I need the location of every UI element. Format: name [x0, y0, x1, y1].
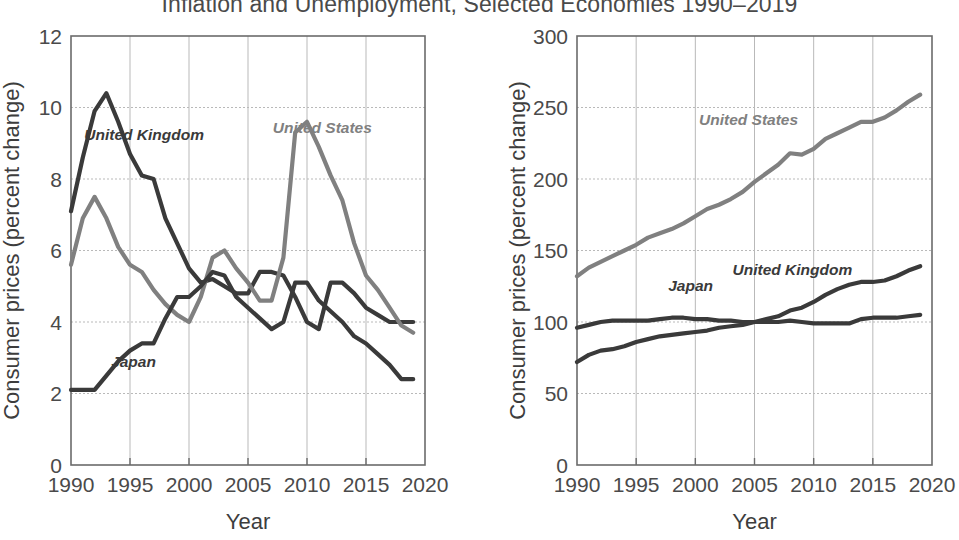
y-axis-label: Consumer prices (percent change) [0, 81, 24, 420]
chart-panel-left: United KingdomUnited StatesJapan02468101… [0, 0, 470, 540]
y-tick-label: 2 [50, 382, 62, 405]
y-tick-label: 8 [50, 168, 62, 191]
x-axis-label: Year [732, 509, 776, 534]
chart-panel-right: United StatesUnited KingdomJapan05010015… [470, 0, 959, 540]
y-tick-label: 50 [545, 382, 568, 405]
y-tick-label: 300 [533, 25, 568, 48]
x-tick-label: 2010 [790, 473, 837, 496]
y-tick-label: 6 [50, 239, 62, 262]
y-tick-label: 12 [39, 25, 62, 48]
x-tick-label: 2000 [166, 473, 213, 496]
x-tick-label: 2020 [402, 473, 449, 496]
series-label-united-states: United States [273, 119, 372, 136]
x-tick-label: 1995 [107, 473, 154, 496]
x-tick-label: 2005 [225, 473, 272, 496]
series-label-united-states: United States [699, 111, 798, 128]
y-tick-label: 4 [50, 311, 62, 334]
x-tick-label: 1990 [48, 473, 95, 496]
y-axis-label: Consumer prices (percent change) [505, 81, 530, 420]
chart-page: Inflation and Unemployment, Selected Eco… [0, 0, 959, 540]
series-line-japan [577, 315, 920, 328]
y-tick-label: 10 [39, 96, 62, 119]
series-label-japan: Japan [111, 353, 156, 370]
series-line-united-kingdom [577, 266, 920, 362]
y-tick-label: 150 [533, 239, 568, 262]
line-chart-price-level: United StatesUnited KingdomJapan05010015… [470, 0, 959, 540]
chart-right-content: United StatesUnited KingdomJapan05010015… [505, 25, 955, 535]
x-tick-label: 2020 [909, 473, 956, 496]
series-label-japan: Japan [668, 277, 713, 294]
series-label-united-kingdom: United Kingdom [84, 126, 204, 143]
y-tick-label: 100 [533, 311, 568, 334]
x-tick-label: 2010 [284, 473, 331, 496]
chart-left-content: United KingdomUnited StatesJapan02468101… [0, 25, 448, 535]
x-tick-label: 2005 [731, 473, 778, 496]
y-tick-label: 250 [533, 96, 568, 119]
line-chart-inflation: United KingdomUnited StatesJapan02468101… [0, 0, 470, 540]
x-tick-label: 2015 [343, 473, 390, 496]
series-label-united-kingdom: United Kingdom [733, 261, 853, 278]
series-line-japan [71, 272, 413, 390]
x-axis-label: Year [226, 509, 270, 534]
y-tick-label: 200 [533, 168, 568, 191]
x-tick-label: 2015 [849, 473, 896, 496]
x-tick-label: 1995 [613, 473, 660, 496]
x-tick-label: 1990 [554, 473, 601, 496]
x-tick-label: 2000 [672, 473, 719, 496]
